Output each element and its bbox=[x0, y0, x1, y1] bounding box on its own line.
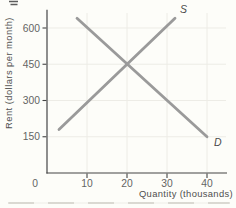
x-tick-label: 20 bbox=[121, 178, 133, 189]
x-tick-label: 0 bbox=[32, 178, 38, 189]
demand-curve-label: D bbox=[214, 136, 222, 148]
y-tick-label: 450 bbox=[23, 59, 40, 70]
supply-curve bbox=[59, 18, 175, 129]
x-axis-title: Quantity (thousands) bbox=[139, 188, 233, 199]
y-tick-label: 600 bbox=[23, 23, 40, 34]
supply-demand-figure: Rent (dollars per month) SD0102030401503… bbox=[0, 0, 236, 208]
demand-curve bbox=[77, 18, 207, 136]
plot-area: SD010203040150300450600 bbox=[0, 0, 236, 208]
bottom-scan-streak bbox=[8, 202, 230, 204]
x-tick-label: 10 bbox=[81, 178, 93, 189]
y-tick-label: 300 bbox=[23, 95, 40, 106]
y-tick-label: 150 bbox=[23, 131, 40, 142]
supply-curve-label: S bbox=[180, 3, 187, 15]
